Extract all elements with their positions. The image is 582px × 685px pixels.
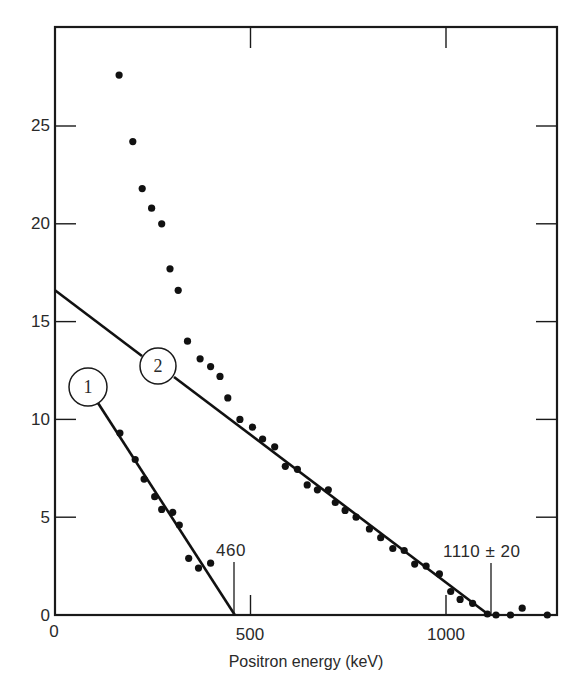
data-point-series-1	[148, 205, 155, 212]
data-point-series-2	[141, 476, 148, 483]
data-point-series-2	[169, 509, 176, 516]
x-tick-label-0: 0	[49, 622, 58, 641]
x-tick-label-500: 500	[236, 625, 264, 644]
data-point-series-2	[158, 506, 165, 513]
data-point-series-1	[216, 373, 223, 380]
data-point-series-2	[195, 565, 202, 572]
data-point-series-1	[411, 561, 418, 568]
data-point-series-1	[423, 563, 430, 570]
y-tick-label-15: 15	[31, 312, 50, 331]
fit-line-2-upper	[55, 290, 142, 356]
plot-frame	[55, 27, 557, 615]
y-tick-label-25: 25	[31, 116, 50, 135]
data-points	[116, 72, 551, 619]
data-point-series-1	[294, 466, 301, 473]
data-point-series-1	[197, 355, 204, 362]
data-point-series-2	[207, 560, 214, 567]
data-point-series-1	[436, 570, 443, 577]
data-point-series-1	[259, 435, 266, 442]
data-point-series-1	[457, 596, 464, 603]
data-point-series-1	[282, 463, 289, 470]
x-tick-label-1000: 1000	[427, 625, 465, 644]
data-point-series-1	[342, 507, 349, 514]
data-point-series-1	[389, 545, 396, 552]
data-point-series-1	[158, 220, 165, 227]
data-point-series-1	[207, 363, 214, 370]
y-axis-tick-labels: 0 5 10 15 20 25	[31, 116, 50, 625]
y-tick-label-20: 20	[31, 214, 50, 233]
data-point-series-1	[484, 610, 491, 617]
data-point-series-1	[366, 525, 373, 532]
data-point-series-2	[151, 493, 158, 500]
series-1-number: 1	[84, 377, 93, 397]
data-point-series-1	[377, 534, 384, 541]
x-axis-title: Positron energy (keV)	[229, 653, 384, 670]
data-point-series-1	[314, 486, 321, 493]
data-point-series-1	[401, 547, 408, 554]
data-point-series-1	[469, 600, 476, 607]
data-point-series-2	[176, 521, 183, 528]
endpoint-label-460: 460	[216, 541, 246, 560]
fit-line-2-lower	[174, 377, 489, 615]
series-2-number: 2	[154, 356, 163, 376]
data-point-series-1	[332, 499, 339, 506]
data-point-series-1	[447, 588, 454, 595]
data-point-series-1	[175, 287, 182, 294]
data-point-series-1	[249, 424, 256, 431]
data-point-series-1	[325, 486, 332, 493]
data-point-series-1	[492, 611, 499, 618]
data-point-series-1	[184, 338, 191, 345]
data-point-series-1	[519, 605, 526, 612]
data-point-series-2	[185, 555, 192, 562]
data-point-series-1	[236, 416, 243, 423]
data-point-series-1	[129, 138, 136, 145]
data-point-series-2	[116, 430, 123, 437]
data-point-series-1	[116, 72, 123, 79]
endpoint-label-1110: 1110 ± 20	[443, 542, 520, 561]
y-tick-label-10: 10	[31, 410, 50, 429]
data-point-series-2	[132, 456, 139, 463]
data-point-series-1	[304, 481, 311, 488]
y-tick-label-5: 5	[41, 508, 50, 527]
chart-canvas: 0 5 10 15 20 25 0 500 1000 Positron ener…	[0, 0, 582, 685]
data-point-series-1	[507, 611, 514, 618]
data-point-series-1	[224, 394, 231, 401]
positron-spectrum-figure: 0 5 10 15 20 25 0 500 1000 Positron ener…	[0, 0, 582, 685]
data-point-series-1	[353, 514, 360, 521]
axis-ticks	[55, 27, 557, 615]
data-point-series-1	[166, 265, 173, 272]
series-label-2: 2	[140, 348, 176, 384]
series-label-1: 1	[69, 368, 107, 406]
data-point-series-1	[544, 611, 551, 618]
x-axis-tick-labels: 0 500 1000	[49, 622, 465, 644]
data-point-series-1	[271, 443, 278, 450]
data-point-series-1	[139, 185, 146, 192]
